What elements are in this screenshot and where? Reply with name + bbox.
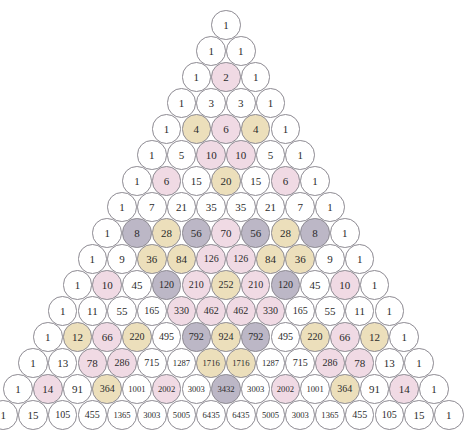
triangle-cell-value: 364 xyxy=(100,384,115,394)
triangle-cell-value: 1 xyxy=(194,71,200,82)
triangle-cell-value: 3003 xyxy=(292,410,309,419)
triangle-cell-value: 1 xyxy=(30,357,36,368)
triangle-cell-value: 1 xyxy=(208,45,214,56)
triangle-cell-value: 286 xyxy=(115,358,130,368)
triangle-cell: 56 xyxy=(241,218,271,248)
triangle-cell-value: 45 xyxy=(131,279,142,290)
triangle-cell-value: 9 xyxy=(327,253,333,264)
triangle-cell: 165 xyxy=(285,296,315,326)
triangle-cell-value: 36 xyxy=(295,253,306,264)
triangle-cell-value: 1 xyxy=(253,71,259,82)
triangle-cell: 330 xyxy=(256,296,286,326)
triangle-cell: 66 xyxy=(330,322,360,352)
triangle-cell: 126 xyxy=(226,244,256,274)
triangle-cell-value: 1 xyxy=(238,45,244,56)
triangle-cell-value: 36 xyxy=(146,253,157,264)
triangle-cell-value: 4 xyxy=(253,123,259,134)
triangle-cell-value: 1 xyxy=(134,175,140,186)
triangle-cell: 1 xyxy=(92,218,122,248)
triangle-cell: 8 xyxy=(300,218,330,248)
triangle-cell: 455 xyxy=(78,400,108,430)
triangle-cell-value: 7 xyxy=(297,201,303,212)
triangle-cell-value: 462 xyxy=(204,306,219,316)
triangle-cell-value: 6 xyxy=(223,123,229,134)
triangle-cell-value: 15 xyxy=(414,409,425,420)
triangle-cell-value: 3 xyxy=(238,97,244,108)
triangle-cell: 120 xyxy=(152,270,182,300)
triangle-cell: 3003 xyxy=(241,374,271,404)
triangle-cell-value: 11 xyxy=(87,305,98,316)
triangle-cell-value: 455 xyxy=(85,410,100,420)
triangle-cell-value: 10 xyxy=(102,279,113,290)
triangle-cell: 1287 xyxy=(256,348,286,378)
triangle-cell-value: 66 xyxy=(102,331,113,342)
triangle-cell-value: 5005 xyxy=(173,410,190,419)
triangle-cell-value: 91 xyxy=(369,383,380,394)
triangle-cell-value: 1 xyxy=(401,331,407,342)
triangle-cell-value: 55 xyxy=(324,305,335,316)
triangle-cell: 1001 xyxy=(300,374,330,404)
triangle-cell: 1 xyxy=(48,296,78,326)
triangle-cell: 84 xyxy=(167,244,197,274)
triangle-cell-value: 220 xyxy=(129,332,144,342)
triangle-cell: 105 xyxy=(48,400,78,430)
triangle-cell: 5 xyxy=(256,140,286,170)
triangle-cell-value: 1 xyxy=(164,123,170,134)
triangle-cell-value: 1365 xyxy=(321,410,338,419)
triangle-cell-value: 55 xyxy=(117,305,128,316)
triangle-cell-value: 1716 xyxy=(232,358,249,367)
triangle-cell-value: 1 xyxy=(149,149,155,160)
triangle-cell-value: 252 xyxy=(218,280,233,290)
triangle-cell-value: 1 xyxy=(75,279,81,290)
triangle-cell-value: 6 xyxy=(164,175,170,186)
triangle-cell-value: 6435 xyxy=(232,410,249,419)
triangle-cell-value: 12 xyxy=(72,331,83,342)
triangle-cell: 1716 xyxy=(196,348,226,378)
triangle-cell: 78 xyxy=(345,348,375,378)
triangle-cell-value: 165 xyxy=(144,306,159,316)
triangle-cell: 1 xyxy=(285,140,315,170)
triangle-cell: 1 xyxy=(122,166,152,196)
triangle-cell: 924 xyxy=(211,322,241,352)
triangle-cell: 20 xyxy=(211,166,241,196)
triangle-cell: 330 xyxy=(167,296,197,326)
triangle-cell: 3 xyxy=(196,88,226,118)
triangle-cell-value: 5 xyxy=(268,149,274,160)
triangle-cell-value: 1287 xyxy=(262,358,279,367)
triangle-cell-value: 1 xyxy=(431,383,437,394)
triangle-cell: 105 xyxy=(375,400,405,430)
triangle-cell-value: 455 xyxy=(352,410,367,420)
triangle-cell-value: 792 xyxy=(248,332,263,342)
triangle-cell: 3432 xyxy=(211,374,241,404)
triangle-cell-value: 12 xyxy=(369,331,380,342)
triangle-cell: 1 xyxy=(63,270,93,300)
triangle-cell: 1 xyxy=(107,192,137,222)
triangle-cell: 21 xyxy=(256,192,286,222)
triangle-cell-value: 1 xyxy=(104,227,110,238)
triangle-cell: 6435 xyxy=(226,400,256,430)
triangle-cell: 3003 xyxy=(285,400,315,430)
triangle-cell-value: 78 xyxy=(354,357,365,368)
triangle-cell-value: 1 xyxy=(283,123,289,134)
triangle-cell: 220 xyxy=(122,322,152,352)
triangle-cell-value: 165 xyxy=(293,306,308,316)
triangle-cell: 4 xyxy=(241,114,271,144)
triangle-cell-value: 210 xyxy=(248,280,263,290)
triangle-cell-value: 1 xyxy=(312,175,318,186)
triangle-cell-value: 1365 xyxy=(113,410,130,419)
triangle-cell-value: 56 xyxy=(191,227,202,238)
triangle-cell: 3003 xyxy=(137,400,167,430)
triangle-cell-value: 2 xyxy=(223,71,229,82)
triangle-cell-value: 20 xyxy=(220,175,231,186)
triangle-cell-value: 1 xyxy=(45,331,51,342)
triangle-cell: 5 xyxy=(167,140,197,170)
triangle-cell-value: 1 xyxy=(342,227,348,238)
triangle-cell-value: 286 xyxy=(322,358,337,368)
triangle-cell-value: 495 xyxy=(278,332,293,342)
triangle-cell: 286 xyxy=(315,348,345,378)
triangle-cell-value: 1 xyxy=(1,409,7,420)
triangle-cell-value: 1 xyxy=(179,97,185,108)
triangle-cell: 495 xyxy=(152,322,182,352)
triangle-cell: 10 xyxy=(92,270,122,300)
triangle-cell: 455 xyxy=(345,400,375,430)
